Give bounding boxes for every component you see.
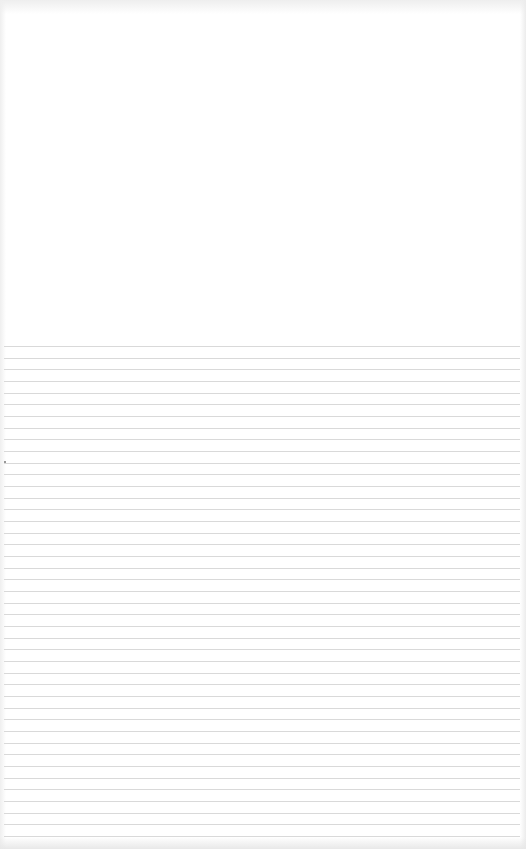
ruled-line	[4, 416, 520, 417]
ruled-line	[4, 789, 520, 790]
ruled-line	[4, 521, 520, 522]
ruled-line	[4, 603, 520, 604]
ruled-line	[4, 766, 520, 767]
ruled-line	[4, 684, 520, 685]
ruled-line	[4, 451, 520, 452]
ruled-line	[4, 439, 520, 440]
ruled-line	[4, 754, 520, 755]
page-right-edge	[520, 0, 526, 849]
ruled-line	[4, 509, 520, 510]
ruled-line	[4, 369, 520, 370]
ruled-line	[4, 778, 520, 779]
ruled-line	[4, 673, 520, 674]
ruled-line	[4, 743, 520, 744]
ruled-line	[4, 381, 520, 382]
ruled-line	[4, 404, 520, 405]
ruled-line	[4, 568, 520, 569]
notebook-page	[0, 0, 526, 849]
ruled-line	[4, 556, 520, 557]
ruled-line	[4, 358, 520, 359]
ruled-line	[4, 474, 520, 475]
ruled-line	[4, 731, 520, 732]
ruled-line	[4, 346, 520, 347]
page-top-edge	[0, 0, 526, 14]
ruled-line	[4, 836, 520, 837]
ink-dot	[4, 461, 6, 463]
page-left-edge	[0, 0, 6, 849]
ruled-line	[4, 614, 520, 615]
ruled-line	[4, 463, 520, 464]
ruled-line	[4, 696, 520, 697]
ruled-line	[4, 533, 520, 534]
ruled-line	[4, 801, 520, 802]
ruled-line	[4, 498, 520, 499]
ruled-line	[4, 428, 520, 429]
ruled-line	[4, 544, 520, 545]
ruled-line	[4, 708, 520, 709]
page-bottom-edge	[0, 837, 526, 849]
ruled-line	[4, 393, 520, 394]
ruled-line	[4, 591, 520, 592]
ruled-line	[4, 579, 520, 580]
ruled-line	[4, 813, 520, 814]
ruled-line	[4, 661, 520, 662]
ruled-line	[4, 626, 520, 627]
ruled-line	[4, 638, 520, 639]
ruled-line	[4, 824, 520, 825]
ruled-line	[4, 649, 520, 650]
ruled-line	[4, 486, 520, 487]
ruled-line	[4, 719, 520, 720]
